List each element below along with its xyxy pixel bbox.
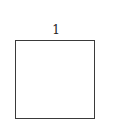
side-length-label: 1 [49, 23, 63, 37]
square-shape [15, 40, 95, 119]
